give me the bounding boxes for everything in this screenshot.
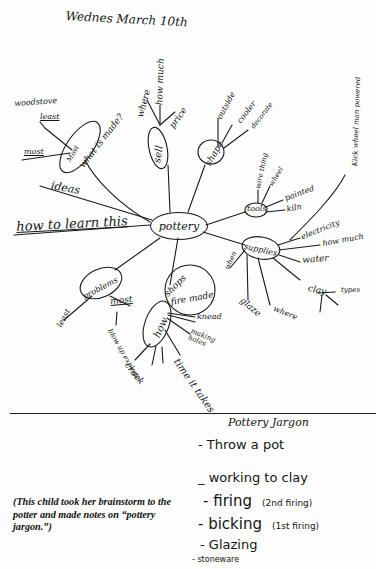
note-2nd-firing: (2nd firing) xyxy=(262,498,312,508)
scanned-page: Wednes March 10th pottery what is made? … xyxy=(0,0,376,569)
jargon-item-glazing: - Glazing xyxy=(200,537,257,552)
leaf-most-problems: most xyxy=(110,295,133,306)
jargon-item-throw-a-pot: - Throw a pot xyxy=(198,437,284,452)
figure-caption: (This child took her brainstorm to the p… xyxy=(13,496,193,534)
leaf-how-much: how much xyxy=(155,58,166,105)
jargon-item-bicking: - bicking(1st firing) xyxy=(198,515,319,533)
jargon-item-working-to-clay: _ working to clay xyxy=(198,470,308,485)
leaf-types: types xyxy=(341,287,360,294)
center-node-pottery: pottery xyxy=(150,212,208,240)
leaf-most: most xyxy=(24,148,44,156)
leaf-least: least xyxy=(40,113,59,121)
jargon-item-firing: - firing(2nd firing) xyxy=(203,492,312,510)
jargon-title: Pottery Jargon xyxy=(228,416,309,429)
jargon-item-stoneware: - stoneware xyxy=(192,555,239,564)
section-divider xyxy=(10,413,376,414)
note-1st-firing: (1st firing) xyxy=(272,521,319,531)
node-tools: tools xyxy=(247,205,267,213)
leaf-knead: knead xyxy=(197,313,222,321)
